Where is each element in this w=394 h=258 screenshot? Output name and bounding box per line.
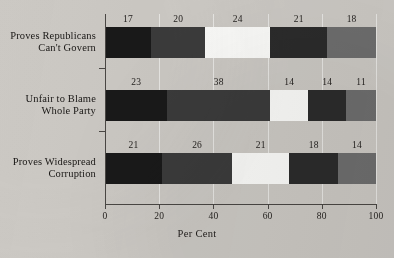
bar-value-label: 20 (173, 14, 183, 25)
bar-segment (162, 153, 232, 184)
x-axis-tick-label: 20 (154, 211, 164, 222)
bar-segment (338, 153, 376, 184)
x-axis-tick-label: 60 (263, 211, 273, 222)
bar-value-label: 14 (322, 77, 332, 88)
bar-value-label: 14 (284, 77, 294, 88)
bar-value-label: 26 (192, 140, 202, 151)
bar-value-label: 18 (347, 14, 357, 25)
x-axis-tick-label: 0 (103, 211, 108, 222)
bar-segment (105, 27, 151, 58)
bar-value-label: 18 (309, 140, 319, 151)
bar-value-label: 24 (233, 14, 243, 25)
category-label: Proves WidespreadCorruption (0, 156, 96, 181)
chart-container: 172024211823381414112126211814 020406080… (0, 0, 394, 258)
x-axis-tick (159, 205, 160, 209)
bar-value-label: 21 (294, 14, 304, 25)
bar-segment (346, 90, 376, 121)
bar-value-label: 38 (214, 77, 224, 88)
bar-segment (105, 153, 162, 184)
gridline (376, 14, 377, 204)
bar-segment (105, 90, 167, 121)
x-axis-title: Per Cent (0, 228, 394, 239)
bar-segment (270, 90, 308, 121)
bar-segment (308, 90, 346, 121)
x-axis-tick (376, 205, 377, 209)
bar-segment (327, 27, 376, 58)
stacked-bar (105, 27, 376, 58)
x-axis-tick (213, 205, 214, 209)
category-label-line1: Unfair to Blame (0, 93, 96, 106)
category-label: Unfair to BlameWhole Party (0, 93, 96, 118)
stacked-bar (105, 90, 376, 121)
category-label-line1: Proves Widespread (0, 156, 96, 169)
bar-segment (151, 27, 205, 58)
category-label-line2: Corruption (0, 168, 96, 181)
plot-area: 172024211823381414112126211814 (105, 14, 376, 204)
bar-value-label: 11 (356, 77, 366, 88)
x-axis-tick-label: 80 (317, 211, 327, 222)
x-axis-tick (105, 205, 106, 209)
x-axis-tick (322, 205, 323, 209)
category-label-line1: Proves Republicans (0, 30, 96, 43)
bar-value-label: 17 (123, 14, 133, 25)
bar-segment (289, 153, 338, 184)
category-label-line2: Can't Govern (0, 42, 96, 55)
bar-value-label: 21 (256, 140, 266, 151)
x-axis-tick-label: 40 (208, 211, 218, 222)
category-label-line2: Whole Party (0, 105, 96, 118)
bar-segment (270, 27, 327, 58)
bar-value-label: 21 (129, 140, 139, 151)
y-axis-line (105, 14, 106, 205)
y-axis-tick (99, 131, 105, 132)
stacked-bar (105, 153, 376, 184)
bar-segment (205, 27, 270, 58)
category-label: Proves RepublicansCan't Govern (0, 30, 96, 55)
y-axis-tick (99, 68, 105, 69)
bar-value-label: 23 (131, 77, 141, 88)
x-axis-tick-label: 100 (369, 211, 384, 222)
bar-value-label: 14 (352, 140, 362, 151)
bar-segment (167, 90, 270, 121)
x-axis-line (105, 204, 377, 205)
bar-segment (232, 153, 289, 184)
x-axis-tick (268, 205, 269, 209)
